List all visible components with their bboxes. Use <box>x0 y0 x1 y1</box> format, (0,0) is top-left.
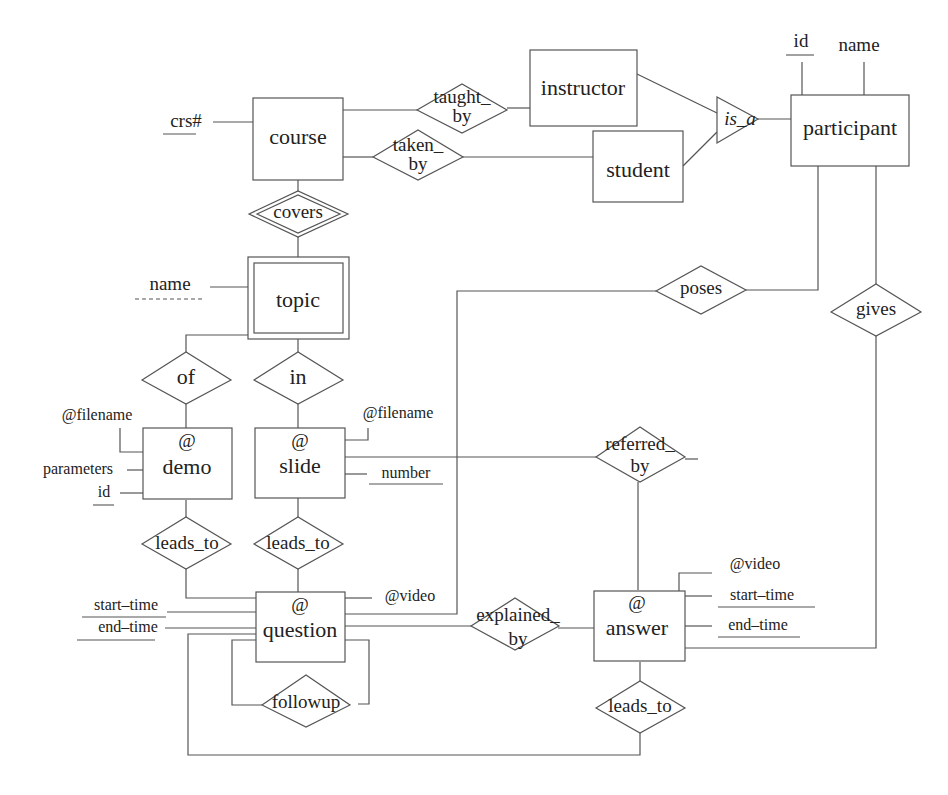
attribute-label: @filename <box>62 406 133 424</box>
attribute-label: id <box>98 483 110 500</box>
relationship-referred-by[interactable]: referred_ by <box>596 427 685 482</box>
relationship-label: by <box>631 455 651 476</box>
entity-demo[interactable]: @ demo <box>143 428 232 499</box>
relationship-label: referred_ <box>605 433 675 454</box>
relationship-taught-by[interactable]: taught_ by <box>417 84 507 133</box>
relationship-label: leads_to <box>608 695 671 716</box>
connector-lines <box>120 62 876 755</box>
attribute-label: end–time <box>98 618 158 635</box>
entity-label: slide <box>279 453 321 478</box>
multimedia-marker: @ <box>628 592 646 613</box>
attribute-answer-start-time[interactable]: start–time <box>718 586 815 607</box>
entity-label: instructor <box>541 75 626 100</box>
entity-answer[interactable]: @ answer <box>594 591 685 661</box>
entity-label: demo <box>163 454 212 479</box>
attribute-question-end-time[interactable]: end–time <box>77 618 158 640</box>
isa-label: is_a <box>724 108 756 129</box>
relationship-label: leads_to <box>155 532 218 553</box>
relationship-label: taken_ <box>393 134 444 155</box>
relationship-label: in <box>289 364 306 389</box>
relationship-label: explained_ <box>476 604 560 625</box>
attribute-participant-name[interactable]: name <box>838 34 879 55</box>
relationship-label: by <box>453 105 473 126</box>
attribute-label: end–time <box>728 616 788 633</box>
relationship-label: leads_to <box>266 532 329 553</box>
attribute-label: @video <box>385 587 435 605</box>
attribute-answer-end-time[interactable]: end–time <box>718 616 800 637</box>
attribute-question-video[interactable]: @video <box>385 587 435 605</box>
attribute-label: crs# <box>170 110 202 131</box>
relationship-label: gives <box>856 298 896 319</box>
relationship-label: covers <box>273 201 323 222</box>
relationship-label: by <box>409 153 429 174</box>
relationship-of[interactable]: of <box>142 352 231 404</box>
multimedia-marker: @ <box>291 594 309 615</box>
er-diagram: course instructor student participant to… <box>0 0 948 795</box>
attribute-label: parameters <box>43 460 113 478</box>
attribute-label: name <box>149 273 190 294</box>
multimedia-marker: @ <box>291 430 309 451</box>
relationship-gives[interactable]: gives <box>831 284 921 336</box>
attribute-label: start–time <box>730 586 794 603</box>
entity-question[interactable]: @ question <box>256 592 345 662</box>
relationship-label: taught_ <box>434 86 491 107</box>
relationship-label: followup <box>272 691 341 712</box>
attribute-label: start–time <box>94 596 158 613</box>
identifying-relationship-covers[interactable]: covers <box>249 191 348 237</box>
attribute-crs[interactable]: crs# <box>163 110 202 134</box>
entity-instructor[interactable]: instructor <box>530 50 637 126</box>
attribute-label: id <box>794 30 809 51</box>
entity-label: student <box>606 157 670 182</box>
attribute-label: @filename <box>363 404 434 422</box>
relationship-leads-to-demo[interactable]: leads_to <box>142 517 231 569</box>
entity-label: answer <box>606 615 669 640</box>
entity-course[interactable]: course <box>253 98 343 180</box>
attribute-label: number <box>382 464 432 481</box>
attribute-question-start-time[interactable]: start–time <box>82 596 166 617</box>
relationship-followup[interactable]: followup <box>262 675 350 727</box>
entity-label: participant <box>803 115 897 140</box>
attribute-label: @video <box>730 555 780 573</box>
relationship-leads-to-answer[interactable]: leads_to <box>596 681 685 733</box>
relationship-taken-by[interactable]: taken_ by <box>373 130 463 180</box>
attribute-participant-id[interactable]: id <box>786 30 814 55</box>
multimedia-marker: @ <box>178 430 196 451</box>
relationship-label: by <box>509 628 529 649</box>
relationship-poses[interactable]: poses <box>656 266 746 314</box>
attribute-demo-id[interactable]: id <box>93 483 114 505</box>
attribute-slide-number[interactable]: number <box>369 464 443 484</box>
attribute-topic-name[interactable]: name <box>135 273 205 299</box>
attribute-slide-filename[interactable]: @filename <box>363 404 434 422</box>
attribute-demo-parameters[interactable]: parameters <box>43 460 113 478</box>
entity-slide[interactable]: @ slide <box>255 428 345 498</box>
relationship-explained-by[interactable]: explained_ by <box>471 598 560 650</box>
relationship-leads-to-slide[interactable]: leads_to <box>254 517 343 569</box>
relationship-label: poses <box>680 277 722 298</box>
weak-entity-topic[interactable]: topic <box>248 257 349 339</box>
entity-label: question <box>263 617 338 642</box>
entity-participant[interactable]: participant <box>791 95 909 166</box>
relationship-in[interactable]: in <box>254 352 343 404</box>
entity-student[interactable]: student <box>593 131 683 202</box>
relationship-label: of <box>177 364 196 389</box>
attribute-answer-video[interactable]: @video <box>730 555 780 573</box>
attribute-demo-filename[interactable]: @filename <box>62 406 133 424</box>
isa-triangle[interactable]: is_a <box>717 97 758 143</box>
attribute-label: name <box>838 34 879 55</box>
entity-label: course <box>269 124 326 149</box>
entity-label: topic <box>276 287 320 312</box>
